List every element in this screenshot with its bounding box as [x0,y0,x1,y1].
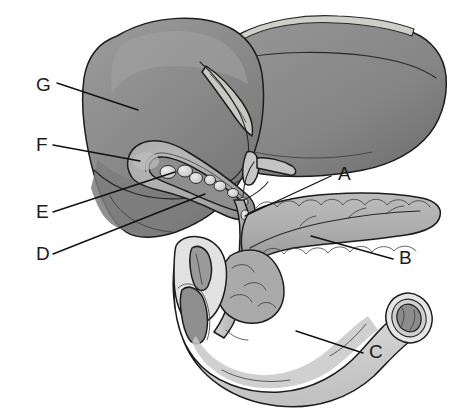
gallstone [205,175,216,185]
label-F[interactable]: F [36,134,48,155]
pancreas-head [217,250,284,323]
label-G[interactable]: G [36,74,51,95]
gallstone [190,173,203,184]
label-B[interactable]: B [399,247,412,268]
label-C[interactable]: C [369,341,383,362]
label-A[interactable]: A [338,163,351,184]
gallstone [214,181,226,191]
anatomy-illustration: G F E D A B C [0,0,467,409]
gallstone [228,189,239,198]
label-E[interactable]: E [36,201,49,222]
anatomy-figure: G F E D A B C [0,0,467,409]
label-D[interactable]: D [36,243,50,264]
